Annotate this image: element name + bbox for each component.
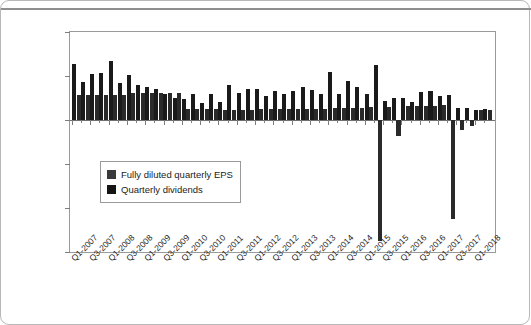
bar [127, 75, 131, 120]
bar [401, 98, 405, 120]
bar [479, 110, 483, 120]
bar-group [273, 32, 282, 252]
bar [460, 120, 464, 130]
bar [113, 95, 117, 120]
bar-group [136, 32, 145, 252]
bar-group [447, 32, 456, 252]
bar-group [163, 32, 172, 252]
legend-label-eps: Fully diluted quarterly EPS [121, 169, 233, 180]
bar-series-container [70, 32, 495, 252]
bar-group [246, 32, 255, 252]
bar-group [383, 32, 392, 252]
bar-group [337, 32, 346, 252]
bar-group [291, 32, 300, 252]
bar [214, 109, 218, 120]
bar [374, 65, 378, 120]
bar [259, 109, 263, 120]
bar [131, 93, 135, 120]
bar-group [282, 32, 291, 252]
bar [428, 91, 432, 120]
bar [310, 90, 314, 120]
bar [396, 120, 400, 136]
bar-group [145, 32, 154, 252]
legend-label-dividends: Quarterly dividends [121, 184, 203, 195]
bar [163, 94, 167, 120]
bar [81, 82, 85, 120]
bar [333, 108, 337, 120]
bar [442, 105, 446, 120]
bar [150, 93, 154, 120]
bar-group [419, 32, 428, 252]
bar [173, 98, 177, 120]
bar-group [99, 32, 108, 252]
bar [328, 72, 332, 120]
bar [447, 95, 451, 120]
legend-item: Quarterly dividends [107, 182, 233, 197]
bar [90, 74, 94, 120]
bar [470, 120, 474, 126]
bar [269, 109, 273, 120]
bar-group [365, 32, 374, 252]
bar-group [81, 32, 90, 252]
bar-group [227, 32, 236, 252]
bar [246, 89, 250, 120]
bar-group [182, 32, 191, 252]
bar-group [401, 32, 410, 252]
bar [415, 106, 419, 120]
bar [209, 94, 213, 120]
bar [424, 106, 428, 120]
bar [86, 95, 90, 120]
bar [291, 91, 295, 120]
bar [406, 106, 410, 120]
bar [273, 91, 277, 120]
bar [177, 93, 181, 120]
bar-group [118, 32, 127, 252]
bar [136, 85, 140, 120]
bar-group [200, 32, 209, 252]
bar [433, 106, 437, 120]
bar [355, 87, 359, 120]
bar [387, 107, 391, 120]
bar [474, 110, 478, 120]
bar-group [346, 32, 355, 252]
bar [200, 103, 204, 120]
bar [438, 96, 442, 120]
bar [77, 95, 81, 120]
bar [255, 89, 259, 120]
bar [383, 101, 387, 120]
bar [346, 81, 350, 120]
bar [305, 109, 309, 120]
bar [168, 93, 172, 120]
bar [301, 87, 305, 120]
bar [369, 107, 373, 120]
bar [205, 109, 209, 120]
bar [104, 95, 108, 120]
bar [141, 93, 145, 120]
bar-group [173, 32, 182, 252]
bar [342, 108, 346, 120]
bar-group [428, 32, 437, 252]
y-axis-tick-mark [65, 252, 70, 253]
bar-group [127, 32, 136, 252]
bar [232, 110, 236, 120]
bar [159, 93, 163, 120]
bar [378, 120, 382, 241]
bar [223, 110, 227, 120]
bar [250, 110, 254, 120]
bar-group [355, 32, 364, 252]
bar [365, 94, 369, 120]
bar [145, 87, 149, 120]
bar [109, 61, 113, 120]
bar [488, 110, 492, 120]
bar [323, 109, 327, 120]
bar-group [90, 32, 99, 252]
bar [186, 109, 190, 120]
bar-group [237, 32, 246, 252]
bar [419, 92, 423, 120]
bar-group [109, 32, 118, 252]
bar [218, 102, 222, 120]
bar-group [374, 32, 383, 252]
bar-group [483, 32, 492, 252]
bar-group [456, 32, 465, 252]
